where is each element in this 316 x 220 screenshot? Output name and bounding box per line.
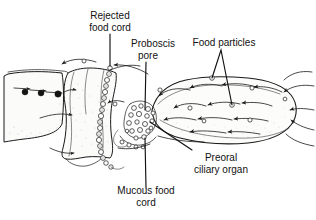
mucous-food-cord-line1: Mucous food xyxy=(117,185,174,196)
preoral-ciliary-organ-line2: ciliary organ xyxy=(194,164,248,175)
label-proboscis-pore: Proboscis pore xyxy=(131,38,175,61)
label-preoral-ciliary-organ: Preoral ciliary organ xyxy=(194,152,248,175)
leader-proboscis-pore xyxy=(145,62,146,110)
rejected-food-cord-line1: Rejected xyxy=(90,10,129,21)
mucous-food-cord-line2: cord xyxy=(136,197,155,208)
label-mucous-food-cord: Mucous food cord xyxy=(117,185,174,208)
proboscis-pore-line2: pore xyxy=(138,50,158,61)
food-particles-line1: Food particles xyxy=(193,37,256,48)
label-rejected-food-cord: Rejected food cord xyxy=(89,10,131,33)
preoral-ciliary-organ xyxy=(114,101,157,149)
rejected-food-cord-line2: food cord xyxy=(89,22,131,33)
label-food-particles: Food particles xyxy=(193,37,256,48)
proboscis-pore-line1: Proboscis xyxy=(131,38,175,49)
proboscis-region xyxy=(152,77,296,144)
figure-canvas: Rejected food cord Proboscis pore Food p… xyxy=(0,0,316,220)
preoral-ciliary-organ-line1: Preoral xyxy=(205,152,237,163)
diagram-svg: Rejected food cord Proboscis pore Food p… xyxy=(0,0,316,220)
